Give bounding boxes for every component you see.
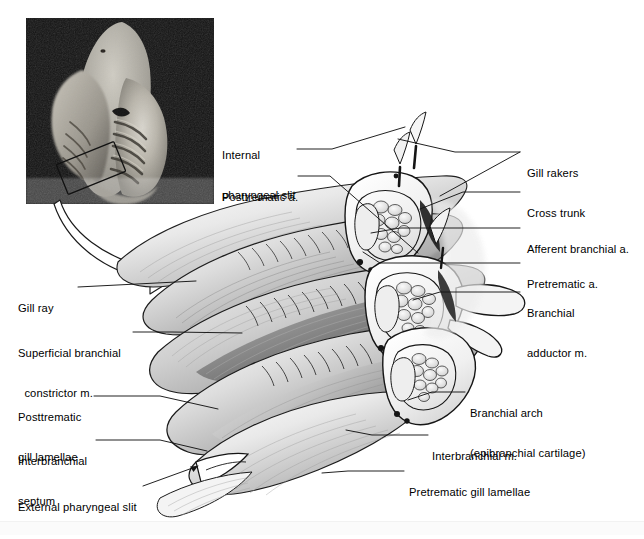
label-gill-rakers-line1: Gill rakers (527, 167, 578, 180)
label-posttrematic-a: Posttrematic a. (222, 164, 298, 231)
label-internal-pharyngeal-slit-line1: Internal (222, 149, 296, 162)
label-pretrematic-gill-lamellae: Pretrematic gill lamellae (409, 459, 530, 526)
label-branchial-adductor-m-line2: adductor m. (527, 347, 587, 360)
label-interbranchial-septum-line1: Interbranchial (18, 455, 87, 468)
label-pretrematic-gill-lamellae-line1: Pretrematic gill lamellae (409, 486, 530, 499)
label-branchial-arch-line1: Branchial arch (470, 407, 586, 420)
branchial-arch-section-3 (383, 328, 476, 425)
label-posttrematic-gill-lamellae-line1: Posttrematic (18, 411, 81, 424)
label-posttrematic-a-line1: Posttrematic a. (222, 191, 298, 204)
label-branchial-adductor-m: Branchial adductor m. (527, 280, 587, 387)
page-bottom-band (0, 521, 644, 535)
branchial-arch-section-1 (345, 112, 432, 274)
label-superficial-branchial-constrictor-line1: Superficial branchial (18, 347, 121, 360)
label-external-pharyngeal-slit-line1: External pharyngeal slit (18, 501, 137, 514)
label-gill-ray-line1: Gill ray (18, 302, 54, 315)
label-branchial-adductor-m-line1: Branchial (527, 307, 587, 320)
